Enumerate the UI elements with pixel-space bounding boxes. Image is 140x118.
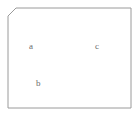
folded-corner-rectangle	[8, 8, 131, 108]
region-label-b: b	[36, 79, 41, 88]
region-label-a: a	[29, 42, 33, 51]
diagram-canvas: a c b	[0, 0, 140, 118]
region-label-c: c	[95, 42, 99, 51]
diagram-shape-svg	[0, 0, 140, 118]
